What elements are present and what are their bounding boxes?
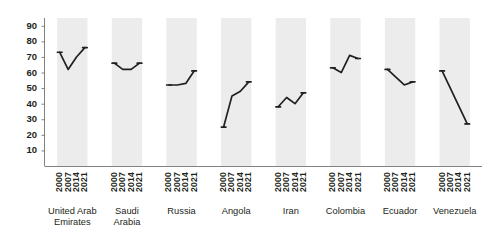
x-axis-country-label: Russia: [152, 206, 211, 217]
x-axis-year-label: 2021: [190, 172, 199, 192]
country-band: [221, 18, 251, 166]
x-axis-country-label: Saudi Arabia: [98, 206, 157, 228]
country-bands-group: [57, 18, 470, 166]
country-band: [385, 18, 415, 166]
y-tick-label: 60: [17, 68, 37, 78]
country-band: [112, 18, 142, 166]
country-band: [166, 18, 196, 166]
x-axis-country-label: United Arab Emirates: [43, 206, 102, 228]
x-axis-year-label: 2021: [80, 172, 89, 192]
x-axis-country-label: Ecuador: [371, 206, 430, 217]
chart-container: 102030405060708090 200020072014202120002…: [0, 0, 488, 235]
y-tick-label: 90: [17, 21, 37, 31]
y-tick-label: 30: [17, 114, 37, 124]
country-band: [57, 18, 87, 166]
x-axis-year-label: 2021: [408, 172, 417, 192]
x-axis-year-label: 2021: [463, 172, 472, 192]
y-tick-label: 80: [17, 36, 37, 46]
y-tick-label: 40: [17, 99, 37, 109]
axis-group: [42, 18, 483, 167]
x-axis-year-label: 2021: [354, 172, 363, 192]
x-axis-country-label: Angola: [207, 206, 266, 217]
x-axis-country-label: Colombia: [316, 206, 375, 217]
y-tick-label: 20: [17, 130, 37, 140]
chart-plot-area: [0, 0, 488, 235]
x-axis-year-label: 2021: [244, 172, 253, 192]
y-tick-label: 70: [17, 52, 37, 62]
country-band: [440, 18, 470, 166]
country-band: [330, 18, 360, 166]
x-axis-year-label: 2021: [135, 172, 144, 192]
x-axis-country-label: Iran: [262, 206, 321, 217]
x-axis-year-label: 2021: [299, 172, 308, 192]
x-axis-country-label: Venezuela: [425, 206, 484, 217]
y-tick-label: 10: [17, 145, 37, 155]
y-tick-label: 50: [17, 83, 37, 93]
